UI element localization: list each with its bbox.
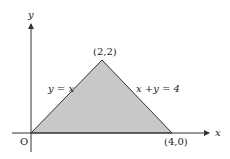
origin-label: O (20, 136, 28, 147)
apex-label: (2,2) (93, 46, 117, 57)
diagram: x y O (2,2) (4,0) y = x x +y = 4 (0, 0, 230, 159)
left-edge-label: y = x (47, 83, 74, 94)
right-vertex-label: (4,0) (164, 136, 188, 147)
right-edge-label: x +y = 4 (136, 83, 180, 94)
shaded-region (31, 60, 172, 133)
y-axis-label: y (27, 9, 34, 20)
x-axis-label: x (215, 127, 221, 138)
